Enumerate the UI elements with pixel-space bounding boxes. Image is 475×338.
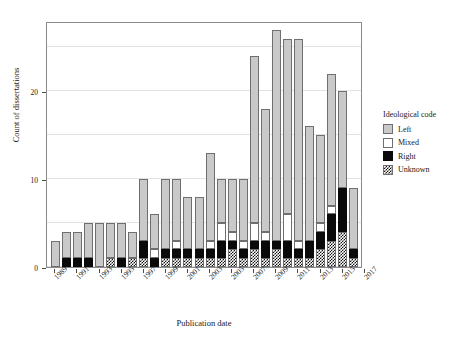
bar-2005	[228, 179, 237, 267]
bar-1996	[128, 232, 137, 267]
bar-segment-unknown	[139, 258, 148, 267]
bar-2013	[316, 135, 325, 267]
y-tick-mark-0	[42, 268, 46, 269]
legend-label-mixed: Mixed	[398, 138, 419, 147]
bar-segment-left	[294, 39, 303, 241]
bar-segment-unknown	[228, 249, 237, 267]
bar-segment-right	[172, 249, 181, 258]
bar-1991	[73, 232, 82, 267]
bar-segment-left	[261, 109, 270, 232]
bar-segment-right	[73, 258, 82, 267]
bar-2007	[250, 56, 259, 267]
bar-segment-right	[139, 241, 148, 259]
bar-segment-left	[73, 232, 82, 258]
legend-label-right: Right	[398, 152, 416, 161]
bar-segment-left	[172, 179, 181, 241]
bar-segment-mixed	[283, 214, 292, 240]
chart-container: Count of dissertations 01020 19891991199…	[0, 0, 475, 338]
bar-segment-left	[338, 91, 347, 188]
bar-segment-right	[294, 249, 303, 258]
bar-1999	[161, 179, 170, 267]
bar-segment-mixed	[316, 223, 325, 232]
bar-2004	[217, 179, 226, 267]
legend-swatch-unknown-icon	[383, 165, 393, 175]
y-axis-title: Count of dissertations	[11, 45, 21, 165]
bar-segment-mixed	[228, 232, 237, 241]
bar-2015	[338, 91, 347, 267]
bar-2016	[349, 188, 358, 267]
legend-rows: LeftMixedRightUnknown	[383, 124, 473, 175]
bar-segment-left	[117, 223, 126, 258]
bar-segment-left	[327, 74, 336, 206]
bar-segment-right	[305, 241, 314, 259]
bar-segment-left	[150, 214, 159, 249]
bar-segment-left	[95, 223, 104, 267]
bar-1995	[117, 223, 126, 267]
bar-segment-right	[228, 241, 237, 250]
bar-segment-right	[239, 249, 248, 258]
legend-swatch-mixed-icon	[383, 138, 393, 148]
bar-segment-left	[272, 30, 281, 241]
bar-segment-left	[195, 197, 204, 250]
x-axis-title: Publication date	[46, 318, 362, 328]
bar-segment-mixed	[294, 241, 303, 250]
bar-segment-left	[349, 188, 358, 250]
legend-label-left: Left	[398, 125, 411, 134]
bar-2000	[172, 179, 181, 267]
bar-segment-left	[183, 197, 192, 250]
bar-segment-unknown	[294, 258, 303, 267]
bar-segment-left	[62, 232, 71, 258]
bar-segment-unknown	[250, 249, 259, 267]
bar-segment-left	[239, 179, 248, 241]
y-tick-label-20: 20	[14, 88, 38, 97]
bar-segment-mixed	[239, 241, 248, 250]
bar-segment-right	[161, 249, 170, 258]
legend-title: Ideological code	[383, 110, 473, 119]
y-tick-label-0: 0	[14, 264, 38, 273]
bar-2003	[206, 153, 215, 267]
bar-segment-right	[327, 214, 336, 240]
bar-2002	[195, 197, 204, 267]
bar-segment-left	[228, 179, 237, 232]
legend-item-unknown[interactable]: Unknown	[383, 165, 473, 175]
bar-segment-mixed	[327, 206, 336, 215]
bar-1989	[51, 241, 60, 267]
bar-2014	[327, 74, 336, 267]
legend-item-left[interactable]: Left	[383, 124, 473, 134]
bar-2001	[183, 197, 192, 267]
bar-segment-right	[261, 241, 270, 259]
bar-2006	[239, 179, 248, 267]
bar-segment-right	[183, 249, 192, 258]
bar-1998	[150, 214, 159, 267]
bar-segment-unknown	[316, 249, 325, 267]
bar-2008	[261, 109, 270, 267]
bar-1994	[106, 223, 115, 267]
bar-segment-mixed	[250, 223, 259, 241]
bar-segment-left	[250, 56, 259, 223]
bar-segment-mixed	[217, 223, 226, 241]
legend-item-mixed[interactable]: Mixed	[383, 138, 473, 148]
bar-segment-unknown	[338, 232, 347, 267]
bar-2010	[283, 39, 292, 267]
bar-segment-left	[316, 135, 325, 223]
bar-segment-left	[51, 241, 60, 267]
bar-segment-left	[128, 232, 137, 258]
bar-segment-left	[283, 39, 292, 215]
bar-segment-right	[272, 241, 281, 250]
bar-segment-right	[195, 249, 204, 258]
legend-item-right[interactable]: Right	[383, 151, 473, 161]
bar-segment-left	[84, 223, 93, 258]
bar-segment-right	[206, 249, 215, 258]
bar-segment-unknown	[183, 258, 192, 267]
bar-segment-right	[349, 249, 358, 258]
bar-segment-left	[206, 153, 215, 241]
bar-segment-right	[283, 241, 292, 259]
x-tick-label-2017: 2017	[362, 264, 379, 281]
bar-segment-left	[139, 179, 148, 241]
bar-segment-unknown	[206, 258, 215, 267]
bar-1992	[84, 223, 93, 267]
bar-2009	[272, 30, 281, 267]
bar-2011	[294, 39, 303, 267]
bar-1993	[95, 223, 104, 267]
bar-segment-right	[217, 241, 226, 259]
